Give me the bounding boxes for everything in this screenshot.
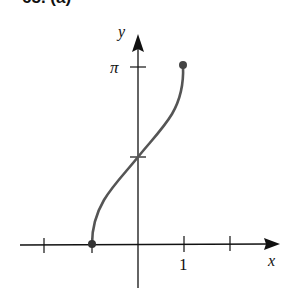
y-axis-label: y — [116, 23, 126, 41]
pi-tick-label: π — [110, 58, 119, 77]
endpoint-end-dot — [179, 61, 187, 69]
one-tick-label: 1 — [179, 255, 188, 274]
x-axis-arrow-icon — [264, 238, 280, 250]
graph: y x π 1 — [0, 0, 286, 289]
x-axis-label: x — [267, 252, 275, 269]
endpoint-start-dot — [88, 240, 96, 248]
x-axis — [20, 244, 268, 245]
